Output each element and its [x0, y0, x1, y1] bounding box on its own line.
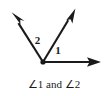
upper-left-arrow-icon: [12, 12, 25, 24]
angle-two-label: 2: [35, 34, 41, 46]
angle-one-label: 1: [55, 44, 61, 56]
figure-caption: ∠1 and ∠2: [28, 78, 80, 90]
angle-figure: 1 2 ∠1 and ∠2: [0, 0, 108, 96]
vertex-point: [40, 59, 45, 64]
horizontal-right-ray: [43, 57, 101, 67]
angle-diagram: 1 2 ∠1 and ∠2: [0, 0, 108, 96]
